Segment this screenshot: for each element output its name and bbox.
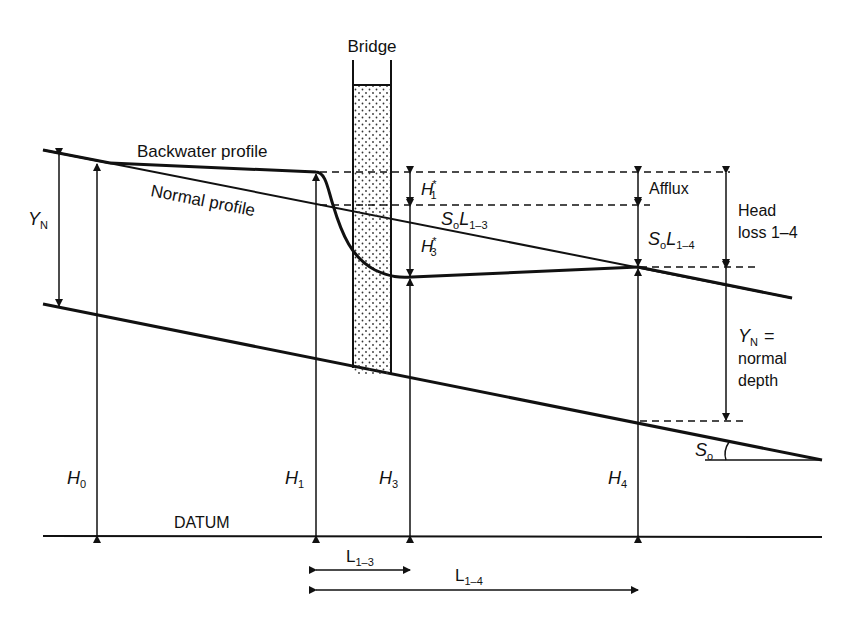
L14-label: L1–4 <box>455 566 483 587</box>
normal-depth-label-line2: normal <box>738 350 787 367</box>
normal-profile-thick-end <box>638 267 792 298</box>
L13-label: L1–3 <box>346 547 374 568</box>
H1-label: H1 <box>285 468 304 490</box>
H3-star-label: H*3 <box>421 235 437 258</box>
bridge-pier <box>353 85 391 374</box>
SoL14-label: SoL1–4 <box>648 229 695 251</box>
So-slope-label: So <box>695 440 713 462</box>
bridge-afflux-diagram: Bridge Backwater profile Normal profile … <box>0 0 848 627</box>
slope-angle-arc <box>725 442 729 460</box>
afflux-label: Afflux <box>649 180 689 197</box>
bridge-label: Bridge <box>347 37 396 56</box>
normal-profile-thick-start <box>43 150 110 163</box>
H4-label: H4 <box>608 468 627 490</box>
H0-label: H0 <box>67 468 86 490</box>
channel-bed-line <box>43 304 822 460</box>
H1-star-label: H*1 <box>421 178 437 201</box>
normal-depth-label-line3: depth <box>738 372 778 389</box>
H3-label: H3 <box>379 468 398 490</box>
backwater-profile-label: Backwater profile <box>137 142 267 161</box>
YN-right-label: YN= <box>738 326 774 348</box>
head-loss-label-line1: Head <box>738 202 776 219</box>
datum-line <box>43 536 822 537</box>
datum-label: DATUM <box>174 514 230 531</box>
head-loss-label-line2: loss 1–4 <box>738 224 798 241</box>
SoL13-label: SoL1–3 <box>441 209 488 231</box>
YN-left-label: YN <box>28 209 48 231</box>
normal-profile-label: Normal profile <box>149 181 256 220</box>
